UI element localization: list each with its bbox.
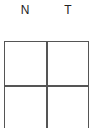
column-header-t: T (58, 3, 78, 17)
grid-cell-r2c2[interactable] (48, 87, 88, 128)
column-header-n: N (15, 3, 35, 17)
grid-cell-r1c2[interactable] (48, 42, 88, 85)
grid-cell-r2c1[interactable] (5, 87, 46, 128)
grid-cell-r1c1[interactable] (5, 42, 46, 85)
grid (4, 41, 89, 128)
